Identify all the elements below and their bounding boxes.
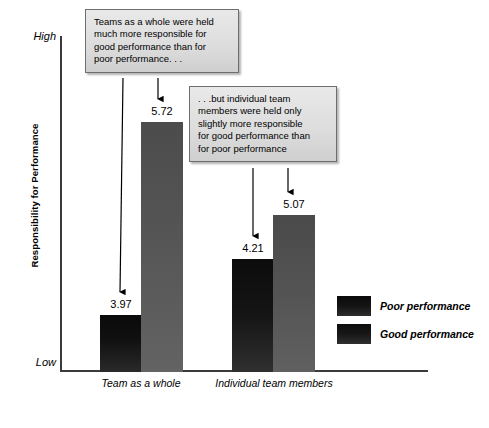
bar-team-poor xyxy=(100,315,141,372)
bar-value-individual-good: 5.07 xyxy=(263,198,325,210)
legend-swatch-poor-icon xyxy=(337,296,371,316)
legend-swatch-good-icon xyxy=(337,324,371,344)
y-axis-title: Responsibility for Performance xyxy=(29,96,40,296)
legend-item-poor: Poor performance xyxy=(337,296,474,316)
chart-legend: Poor performance Good performance xyxy=(337,296,474,352)
bar-value-individual-poor: 4.21 xyxy=(222,242,284,254)
legend-item-good: Good performance xyxy=(337,324,474,344)
callout-box-individuals: . . .but individual team members were he… xyxy=(189,86,337,162)
x-axis-category-individual: Individual team members xyxy=(204,377,344,389)
legend-label-poor: Poor performance xyxy=(380,300,470,312)
callout-box-teams: Teams as a whole were held much more res… xyxy=(85,9,239,73)
y-axis-tick-low: Low xyxy=(18,356,56,368)
x-axis-category-team: Team as a whole xyxy=(86,377,196,389)
y-axis-tick-high: High xyxy=(18,30,56,42)
callout-line: members were held only xyxy=(198,105,328,117)
bar-value-team-poor: 3.97 xyxy=(90,298,152,310)
callout-line: for poor performance xyxy=(198,143,328,155)
bar-value-team-good: 5.72 xyxy=(131,105,193,117)
callout-line: poor performance. . . xyxy=(94,53,230,65)
bar-team-good xyxy=(141,122,183,372)
callout-line: for good performance than xyxy=(198,130,328,142)
callout-line: slightly more responsible xyxy=(198,118,328,130)
bar-individual-poor xyxy=(232,259,273,372)
y-axis-line xyxy=(60,36,62,372)
callout-line: much more responsible for xyxy=(94,28,230,40)
chart-figure: Responsibility for Performance High Low … xyxy=(0,0,489,428)
callout-line: Teams as a whole were held xyxy=(94,16,230,28)
bar-individual-good xyxy=(273,215,315,372)
callout-line: good performance than for xyxy=(94,41,230,53)
callout-line: . . .but individual team xyxy=(198,93,328,105)
legend-label-good: Good performance xyxy=(380,328,474,340)
